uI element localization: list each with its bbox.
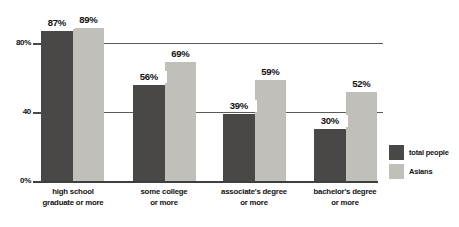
bar-total-people-2	[223, 114, 255, 181]
value-label-total-people-0: 87%	[39, 17, 75, 29]
ytick-label-80: 80%	[0, 38, 31, 47]
category-label-0: high school graduate or more	[27, 187, 119, 208]
bar-Asians-2	[255, 80, 287, 181]
ytick-label-40: 40	[0, 107, 31, 116]
value-label-Asians-0: 89%	[71, 14, 107, 26]
ytick-label-0: 0%	[0, 176, 31, 185]
legend-item-asians: Asians	[389, 164, 449, 179]
x-axis-line	[33, 181, 378, 183]
value-label-total-people-3: 30%	[312, 115, 348, 127]
value-label-total-people-2: 39%	[221, 100, 257, 112]
bar-total-people-0	[41, 31, 73, 181]
legend-item-total-people: total people	[389, 145, 449, 160]
bar-Asians-3	[346, 92, 378, 181]
axis-tick-40	[33, 112, 41, 114]
bar-total-people-1	[133, 85, 165, 181]
legend-swatch-asians	[389, 164, 404, 179]
legend-swatch-total-people	[389, 145, 404, 160]
value-label-Asians-1: 69%	[163, 48, 199, 60]
legend-label-asians: Asians	[409, 167, 432, 176]
bar-Asians-1	[165, 62, 197, 181]
bar-Asians-0	[73, 28, 105, 181]
legend-label-total-people: total people	[409, 148, 449, 157]
value-label-Asians-2: 59%	[253, 66, 289, 78]
category-label-2: associate's degree or more	[208, 187, 300, 208]
category-label-3: bachelor's degree or more	[299, 187, 391, 208]
bar-total-people-3	[314, 129, 346, 181]
legend: total people Asians	[389, 145, 449, 183]
category-label-1: some college or more	[118, 187, 210, 208]
value-label-total-people-1: 56%	[131, 71, 167, 83]
axis-tick-80	[33, 43, 41, 45]
value-label-Asians-3: 52%	[344, 78, 380, 90]
bar-chart: 80% 40 0% 87%56%39%30%89%69%59%52%high s…	[0, 0, 459, 227]
